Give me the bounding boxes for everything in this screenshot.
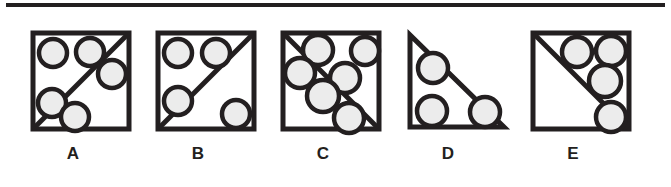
circle-e-1 (562, 37, 592, 67)
circle-a-2 (76, 38, 104, 66)
figure-label-e: E (508, 144, 638, 164)
figure-label-d: D (383, 144, 513, 164)
circle-b-3 (164, 87, 192, 115)
figure-option-c[interactable] (258, 20, 388, 140)
circle-e-4 (596, 102, 626, 132)
circle-c-5 (307, 80, 339, 112)
figure-label-c: C (258, 144, 388, 164)
circle-d-3 (470, 97, 500, 127)
circle-a-3 (98, 60, 126, 88)
figure-panel: A B C D E (0, 0, 671, 187)
circle-e-3 (589, 65, 621, 97)
circle-b-2 (202, 39, 230, 67)
figure-label-a: A (8, 144, 138, 164)
figure-label-b: B (133, 144, 263, 164)
circle-c-6 (334, 103, 364, 133)
figure-option-a[interactable] (8, 20, 138, 140)
figure-option-e[interactable] (508, 20, 638, 140)
top-divider-rule (6, 3, 665, 7)
circle-a-1 (39, 39, 67, 67)
circle-d-2 (417, 96, 447, 126)
figure-labels-row: A B C D E (0, 144, 671, 170)
circle-b-4 (222, 100, 250, 128)
circle-c-2 (351, 37, 379, 65)
figure-option-b[interactable] (133, 20, 263, 140)
circle-e-2 (596, 36, 626, 66)
circle-a-5 (61, 103, 89, 131)
figures-row (0, 20, 671, 140)
circle-d-1 (418, 53, 448, 83)
circle-b-1 (164, 39, 192, 67)
figure-option-d[interactable] (383, 20, 513, 140)
